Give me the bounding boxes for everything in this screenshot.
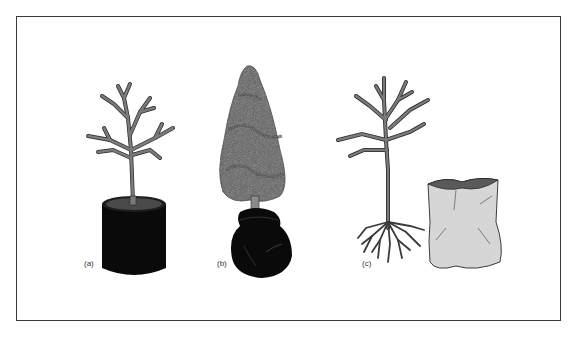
panel-a-label: (a) (84, 259, 94, 268)
trunk-icon (251, 196, 259, 210)
bare-root-tree-icon (338, 78, 428, 262)
panel-a-container-tree (88, 84, 173, 275)
panel-c-label: (c) (362, 259, 371, 268)
panel-b-label: (b) (217, 259, 227, 268)
conifer-foliage-icon (220, 66, 285, 202)
panel-c-bare-root (338, 78, 501, 268)
planting-bag-icon (428, 178, 501, 268)
panel-b-balled-burlapped (220, 66, 292, 278)
illustration (0, 0, 578, 337)
pot-icon (102, 196, 166, 275)
roots-icon (358, 222, 424, 262)
tree-branches-icon (88, 84, 173, 202)
burlap-rootball-icon (231, 208, 292, 278)
